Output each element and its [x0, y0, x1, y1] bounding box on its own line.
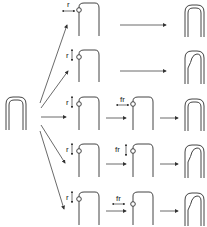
r-label-row2: r — [66, 52, 69, 60]
diagram-canvas: r r r r r fr fr fr — [0, 0, 207, 227]
column3-hairpins — [131, 97, 153, 225]
long-arrows — [120, 25, 166, 71]
outcome-hairpins — [185, 5, 204, 226]
r-label-row5: r — [66, 194, 69, 202]
diagram-svg — [0, 0, 207, 227]
fr-label-row3: fr — [120, 96, 125, 104]
r-label-row3: r — [66, 99, 69, 107]
column2-hairpins — [77, 3, 99, 225]
r-label-row4: r — [66, 146, 69, 154]
source-hairpin — [6, 97, 26, 130]
final-arrows — [160, 118, 178, 211]
fr-arrows — [114, 105, 129, 204]
fr-label-row4: fr — [115, 146, 120, 154]
r-arrows — [64, 11, 75, 203]
r-label-row1: r — [67, 1, 70, 9]
branch-arrows — [40, 25, 68, 209]
fr-label-row5: fr — [116, 195, 121, 203]
